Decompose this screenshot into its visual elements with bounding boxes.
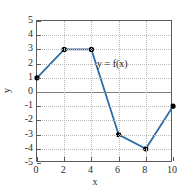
y-axis-tick [37,120,41,121]
data-point-marker [170,104,175,109]
y-axis-tick-label: -1 [25,100,33,110]
x-axis-tick-label: 10 [152,165,190,175]
y-axis-tick [37,135,41,136]
y-axis-tick [37,49,41,50]
y-axis-tick [37,64,41,65]
y-axis-tick-label: -2 [25,114,33,124]
x-axis-tick [173,157,174,161]
curve-annotation-label: y = f(x) [97,58,128,69]
plot-area [36,20,172,162]
y-axis-title: y [1,88,12,93]
y-axis-tick-label: 2 [28,58,33,68]
y-axis-tick-label: 4 [28,29,33,39]
data-point-marker [143,146,148,151]
x-axis-tick [91,157,92,161]
data-point-marker [116,132,121,137]
zero-axis-line [37,92,171,93]
figure-canvas: y x y = f(x) 543210-1-2-3-4-50246810 [0,0,190,193]
y-axis-tick [37,149,41,150]
y-axis-tick-label: 3 [28,43,33,53]
y-axis-tick-label: 0 [28,86,33,96]
data-point-marker [89,47,94,52]
data-point-marker [62,47,67,52]
y-axis-tick [37,21,41,22]
y-axis-tick [37,78,41,79]
x-axis-tick [119,157,120,161]
y-axis-tick [37,35,41,36]
y-axis-tick-label: -3 [25,129,33,139]
y-axis-tick-label: -4 [25,143,33,153]
x-axis-title: x [0,176,190,187]
x-axis-tick [64,157,65,161]
y-axis-tick-label: 5 [28,15,33,25]
y-axis-tick-label: 1 [28,72,33,82]
x-axis-tick [37,157,38,161]
x-axis-tick [146,157,147,161]
y-axis-tick [37,106,41,107]
